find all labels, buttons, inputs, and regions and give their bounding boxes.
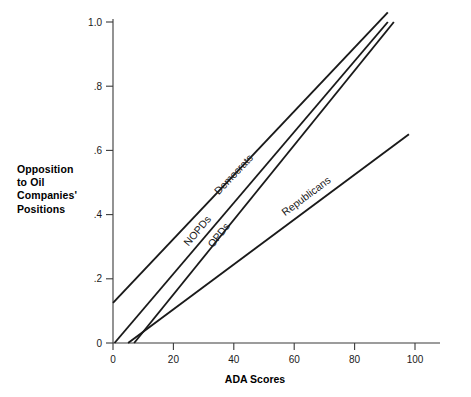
y-tick-label-0.2: .2 (94, 273, 103, 284)
y-tick-label-1.0: 1.0 (88, 17, 102, 28)
series-line-opds (134, 22, 394, 343)
chart-figure: Opposition to Oil Companies' Positions 1… (0, 0, 471, 397)
x-axis-ticks (113, 343, 415, 350)
y-tick-label-0: 0 (96, 338, 102, 349)
y-axis-ticks (106, 22, 113, 343)
y-axis-tick-labels: 1.0 .8 .6 .4 .2 0 (88, 17, 102, 349)
x-tick-label-100: 100 (407, 354, 424, 365)
x-tick-label-0: 0 (110, 354, 116, 365)
series-labels: Democrats NOPDs OPDs Republicans (181, 152, 333, 250)
line-chart-plot: 1.0 .8 .6 .4 .2 0 0 20 40 60 80 100 (0, 0, 471, 397)
x-axis-tick-labels: 0 20 40 60 80 100 (110, 354, 424, 365)
x-axis-title: ADA Scores (225, 373, 285, 385)
series-line-republicans (128, 134, 409, 343)
series-lines (113, 12, 409, 343)
series-line-nopds (115, 22, 388, 343)
x-tick-label-80: 80 (349, 354, 361, 365)
x-tick-label-20: 20 (168, 354, 180, 365)
x-tick-label-40: 40 (228, 354, 240, 365)
y-tick-label-0.8: .8 (94, 81, 103, 92)
y-tick-label-0.4: .4 (94, 209, 103, 220)
series-label-democrats: Democrats (211, 152, 255, 197)
x-tick-label-60: 60 (289, 354, 301, 365)
y-tick-label-0.6: .6 (94, 145, 103, 156)
